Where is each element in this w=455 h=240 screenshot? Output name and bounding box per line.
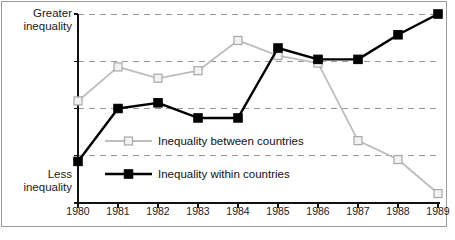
x-tick-label-1982: 1982 [136,205,180,217]
data-point [274,44,283,53]
legend-swatches [105,137,152,178]
data-point [154,74,162,82]
data-point [154,99,163,108]
data-point [234,36,242,44]
data-point [354,55,363,64]
data-point [394,31,403,40]
x-tick-label-1988: 1988 [376,205,420,217]
x-tick-label-1984: 1984 [216,205,260,217]
x-tick-label-1989: 1989 [416,205,455,217]
legend-label-within-countries: Inequality within countries [158,168,290,180]
figure: Greater inequality Less inequality 19801… [0,0,455,240]
legend-marker-within [124,170,133,179]
legend-marker-between [125,137,133,145]
data-point [74,97,82,105]
line-chart-plot [0,0,455,240]
x-tick-label-1980: 1980 [56,205,100,217]
legend-label-between-countries: Inequality between countries [158,135,304,147]
data-point [394,156,402,164]
data-point [434,10,443,19]
x-tick-label-1981: 1981 [96,205,140,217]
data-point [314,55,323,64]
x-tick-label-1983: 1983 [176,205,220,217]
x-tick-label-1985: 1985 [256,205,300,217]
data-point [114,104,123,113]
data-point [434,190,442,198]
data-point [234,114,243,123]
x-tick-label-1986: 1986 [296,205,340,217]
figure-caption [3,230,451,240]
x-tick-label-1987: 1987 [336,205,380,217]
data-point [114,63,122,71]
data-point [194,114,203,123]
data-point [74,157,83,166]
data-point [194,67,202,75]
data-point [354,137,362,145]
